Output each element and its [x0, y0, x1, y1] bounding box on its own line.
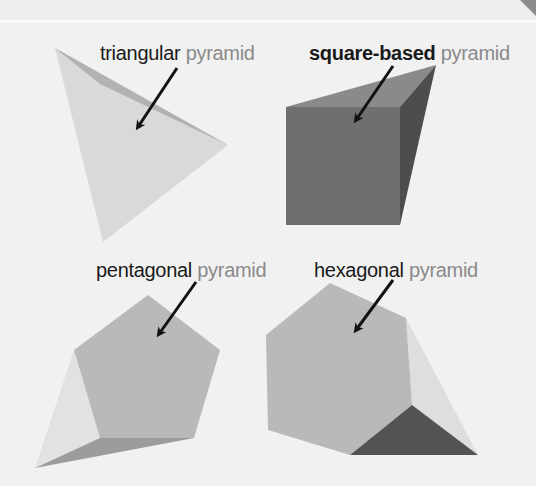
triangular-base-face — [55, 48, 228, 242]
pentagonal-noun-text: pyramid — [197, 259, 266, 281]
triangular-pyramid-shape — [55, 48, 228, 242]
pentagonal-pyramid-shape — [35, 295, 220, 468]
triangular-noun-text: pyramid — [186, 42, 255, 64]
square-kind-text: square-based — [309, 42, 435, 64]
triangular-pyramid-label: triangular pyramid — [100, 42, 255, 64]
triangular-kind-text: triangular — [100, 42, 180, 64]
square-noun-text: pyramid — [441, 42, 510, 64]
hexagonal-pyramid-label: hexagonal pyramid — [314, 259, 478, 281]
square-pyramid-shape — [286, 65, 436, 225]
square-base-face — [286, 107, 400, 225]
square-pyramid-label: square-based pyramid — [309, 42, 510, 64]
hexagonal-noun-text: pyramid — [409, 259, 478, 281]
hexagonal-kind-text: hexagonal — [314, 259, 404, 281]
pentagonal-kind-text: pentagonal — [96, 259, 192, 281]
pentagonal-pyramid-label: pentagonal pyramid — [96, 259, 266, 281]
pyramids-illustration — [0, 0, 536, 486]
pentagonal-base-face — [74, 295, 220, 438]
